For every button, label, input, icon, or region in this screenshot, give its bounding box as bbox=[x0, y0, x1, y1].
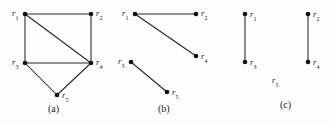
graph-vertex-r1 bbox=[133, 12, 138, 17]
vertex-label-base: r bbox=[272, 75, 275, 85]
graph-panel-c: r1r3r2r4r5(c) bbox=[218, 0, 335, 124]
vertex-label-r4: r4 bbox=[201, 52, 207, 61]
graph-vertex-r5 bbox=[165, 90, 170, 95]
graph-vertex-r3 bbox=[243, 60, 248, 65]
vertex-label-r4: r4 bbox=[313, 58, 319, 67]
figure-container: r1r2r3r4r5(a) r1r2r3r4r5(b) r1r3r2r4r5(c… bbox=[0, 0, 335, 124]
graph-vertex-r4 bbox=[194, 54, 199, 59]
vertex-label-base: r bbox=[201, 51, 204, 61]
graph-vertex-r1 bbox=[23, 12, 28, 17]
graph-panel-b: r1r2r3r4r5(b) bbox=[110, 0, 220, 124]
vertex-label-r2: r2 bbox=[96, 9, 102, 18]
vertex-label-r2: r2 bbox=[201, 9, 207, 18]
vertex-label-base: r bbox=[313, 9, 316, 19]
vertex-label-base: r bbox=[313, 57, 316, 67]
graph-vertex-r1 bbox=[243, 12, 248, 17]
vertex-label-r4: r4 bbox=[96, 58, 102, 67]
vertex-label-base: r bbox=[118, 56, 121, 66]
graph-edge-r3-r5 bbox=[131, 62, 167, 92]
vertex-label-base: r bbox=[96, 8, 99, 18]
vertex-label-subscript: 5 bbox=[176, 94, 179, 100]
vertex-label-subscript: 5 bbox=[276, 82, 279, 88]
panel-caption-b: (b) bbox=[158, 104, 170, 114]
vertex-label-subscript: 2 bbox=[100, 15, 103, 21]
graph-edge-r1-r4 bbox=[25, 14, 91, 63]
graph-vertex-r4 bbox=[89, 61, 94, 66]
vertex-label-r3: r3 bbox=[250, 58, 256, 67]
vertex-label-subscript: 3 bbox=[122, 63, 125, 69]
vertex-label-base: r bbox=[122, 8, 125, 18]
vertex-label-subscript: 5 bbox=[66, 97, 69, 103]
graph-panel-a: r1r2r3r4r5(a) bbox=[0, 0, 115, 124]
graph-vertex-r3 bbox=[129, 60, 134, 65]
panel-caption-c: (c) bbox=[280, 100, 291, 110]
vertex-label-base: r bbox=[250, 9, 253, 19]
vertex-label-subscript: 3 bbox=[254, 64, 257, 70]
vertex-label-r1: r1 bbox=[250, 10, 256, 19]
graph-vertex-r4 bbox=[306, 60, 311, 65]
vertex-label-r1: r1 bbox=[12, 9, 18, 18]
vertex-label-base: r bbox=[172, 87, 175, 97]
vertex-label-subscript: 1 bbox=[254, 16, 257, 22]
vertex-label-subscript: 4 bbox=[317, 64, 320, 70]
graph-edge-r3-r5 bbox=[25, 63, 57, 95]
vertex-label-base: r bbox=[12, 57, 15, 67]
vertex-label-r3: r3 bbox=[118, 57, 124, 66]
vertex-label-base: r bbox=[250, 57, 253, 67]
vertex-label-base: r bbox=[96, 57, 99, 67]
vertex-label-r5: r5 bbox=[62, 91, 68, 100]
vertex-label-r1: r1 bbox=[122, 9, 128, 18]
isolated-vertex-label-r5: r5 bbox=[272, 76, 278, 85]
graph-vertex-r2 bbox=[306, 12, 311, 17]
panel-caption-a: (a) bbox=[48, 104, 59, 114]
vertex-label-subscript: 4 bbox=[205, 58, 208, 64]
vertex-label-r5: r5 bbox=[172, 88, 178, 97]
vertex-label-subscript: 1 bbox=[16, 15, 19, 21]
vertex-label-subscript: 3 bbox=[16, 64, 19, 70]
graph-vertex-r2 bbox=[194, 12, 199, 17]
vertex-label-subscript: 4 bbox=[100, 64, 103, 70]
vertex-label-base: r bbox=[62, 90, 65, 100]
vertex-label-r3: r3 bbox=[12, 58, 18, 67]
graph-vertex-r2 bbox=[89, 12, 94, 17]
graph-edge-r1-r4 bbox=[135, 14, 196, 56]
graph-vertex-r3 bbox=[23, 61, 28, 66]
vertex-label-base: r bbox=[12, 8, 15, 18]
vertex-label-subscript: 2 bbox=[317, 16, 320, 22]
vertex-label-subscript: 1 bbox=[126, 15, 129, 21]
vertex-label-base: r bbox=[201, 8, 204, 18]
graph-vertex-r5 bbox=[55, 93, 60, 98]
vertex-label-subscript: 2 bbox=[205, 15, 208, 21]
vertex-label-r2: r2 bbox=[313, 10, 319, 19]
